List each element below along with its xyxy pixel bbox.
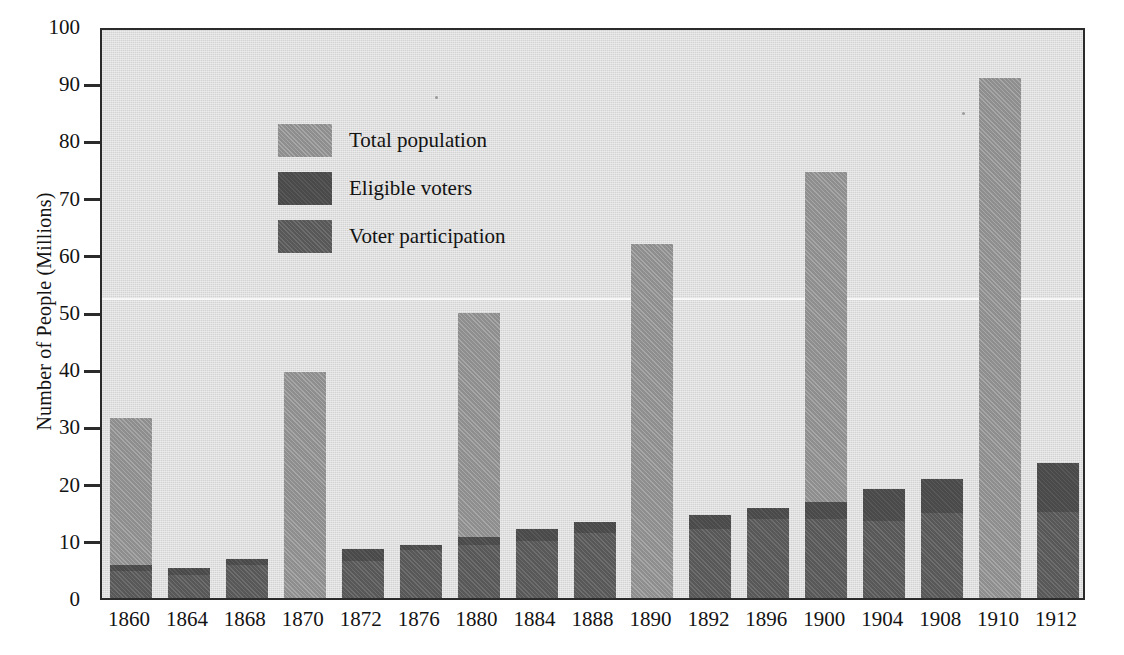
x-axis-tick-label: 1912 <box>1027 608 1085 630</box>
legend-label-voter-participation: Voter participation <box>349 225 506 247</box>
bar-group <box>400 28 442 598</box>
y-axis-tick-label: 70 <box>59 189 80 210</box>
x-axis-tick-label: 1860 <box>100 608 158 630</box>
bar-segment-voter-participation <box>516 541 558 598</box>
x-axis-tick-label: 1870 <box>274 608 332 630</box>
bar-segment-voter-participation <box>747 519 789 598</box>
y-axis-tick-label: 90 <box>59 74 80 95</box>
x-axis-tick-label: 1888 <box>564 608 622 630</box>
y-axis-tick <box>84 84 100 87</box>
y-axis-tick-label: 40 <box>59 360 80 381</box>
legend-item-voter-participation: Voter participation <box>278 212 506 260</box>
legend-swatch-total-population <box>278 124 332 157</box>
bar-segment-voter-participation <box>689 529 731 598</box>
y-axis-tick <box>84 141 100 144</box>
x-axis-tick-label: 1884 <box>506 608 564 630</box>
bar-group <box>226 28 268 598</box>
bar-segment-voter-participation <box>805 519 847 599</box>
bar-segment-voter-participation <box>226 565 268 598</box>
bar-group <box>1037 28 1079 598</box>
y-axis-tick <box>84 541 100 544</box>
bar-segment-voter-participation <box>863 521 905 598</box>
bar-group <box>747 28 789 598</box>
y-axis-tick-label: 60 <box>59 246 80 267</box>
bar-segment-total-population <box>979 78 1021 598</box>
bar-group <box>516 28 558 598</box>
bar-group <box>979 28 1021 598</box>
x-axis-tick-label: 1908 <box>911 608 969 630</box>
y-axis-tick <box>84 484 100 487</box>
legend-label-eligible-voters: Eligible voters <box>349 177 472 199</box>
x-axis-tick-label: 1864 <box>158 608 216 630</box>
bar-segment-voter-participation <box>921 513 963 598</box>
y-axis-tick <box>84 370 100 373</box>
x-axis-tick-label: 1876 <box>390 608 448 630</box>
legend-label-total-population: Total population <box>349 129 487 151</box>
bar-segment-total-population <box>631 244 673 598</box>
legend: Total population Eligible voters Voter p… <box>278 116 506 260</box>
bar-segment-voter-participation <box>110 571 152 598</box>
x-axis-tick-label: 1868 <box>216 608 274 630</box>
y-axis-tick-label: 100 <box>49 17 81 38</box>
bar-chart: Number of People (Millions) 010203040506… <box>0 0 1124 655</box>
bar-segment-voter-participation <box>400 550 442 598</box>
y-axis-tick <box>84 313 100 316</box>
x-axis-tick-label: 1890 <box>621 608 679 630</box>
bar-segment-voter-participation <box>342 561 384 598</box>
y-axis-tick-label: 80 <box>59 131 80 152</box>
bar-group <box>168 28 210 598</box>
bar-group <box>342 28 384 598</box>
plot-area: Total population Eligible voters Voter p… <box>100 28 1085 600</box>
x-axis-tick-label: 1896 <box>737 608 795 630</box>
y-axis-tick-label: 20 <box>59 475 80 496</box>
y-axis-tick <box>84 427 100 430</box>
y-axis-tick-label: 30 <box>59 417 80 438</box>
bar-group <box>284 28 326 598</box>
x-axis-tick-label: 1880 <box>448 608 506 630</box>
bar-segment-voter-participation <box>1037 512 1079 598</box>
legend-item-eligible-voters: Eligible voters <box>278 164 506 212</box>
bar-group <box>805 28 847 598</box>
bar-segment-voter-participation <box>458 545 500 598</box>
x-axis-tick-label: 1900 <box>795 608 853 630</box>
x-axis-tick-label: 1892 <box>679 608 737 630</box>
x-axis-tick-label: 1910 <box>969 608 1027 630</box>
bar-group <box>110 28 152 598</box>
legend-swatch-eligible-voters <box>278 172 332 205</box>
x-axis-tick-label: 1904 <box>853 608 911 630</box>
y-axis-tick-label: 50 <box>59 303 80 324</box>
x-axis-tick-label: 1872 <box>332 608 390 630</box>
bar-group <box>863 28 905 598</box>
y-axis-tick <box>84 198 100 201</box>
y-axis-tick-label: 10 <box>59 532 80 553</box>
y-axis-tick <box>84 255 100 258</box>
bar-group <box>631 28 673 598</box>
bar-segment-voter-participation <box>168 575 210 598</box>
bar-segment-total-population <box>284 372 326 598</box>
bar-group <box>458 28 500 598</box>
legend-swatch-voter-participation <box>278 220 332 253</box>
legend-item-total-population: Total population <box>278 116 506 164</box>
y-axis-title: Number of People (Millions) <box>33 22 56 602</box>
bar-group <box>689 28 731 598</box>
bar-segment-voter-participation <box>574 533 616 598</box>
bar-group <box>574 28 616 598</box>
y-axis-tick-label: 0 <box>70 589 81 610</box>
bar-group <box>921 28 963 598</box>
